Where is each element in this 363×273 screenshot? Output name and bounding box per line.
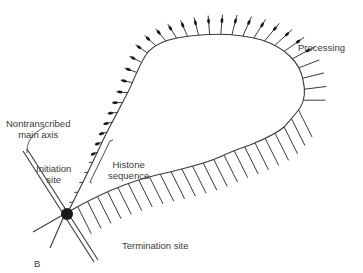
transcript-fibril xyxy=(97,196,111,223)
transcript-fibril xyxy=(139,180,153,207)
transcript-fibril xyxy=(208,16,210,35)
transcript-fibril xyxy=(275,30,292,46)
rnp-particle-icon xyxy=(247,19,252,25)
rnp-particle-icon xyxy=(113,101,118,104)
label-initiation-line2: site xyxy=(36,174,71,185)
label-histone-line1: Histone xyxy=(108,159,149,170)
label-initiation: Initiation site xyxy=(36,163,71,185)
label-processing: Processing xyxy=(298,42,345,53)
transcript-fibril xyxy=(214,159,228,186)
rnp-particle-icon xyxy=(103,122,109,126)
transcript-fibril xyxy=(193,166,207,193)
transcript-fibril xyxy=(305,86,327,89)
transcript-fibril xyxy=(203,163,217,190)
transcript-fibril xyxy=(221,15,223,35)
transcript-fibril xyxy=(160,174,174,201)
junction-blob xyxy=(61,208,73,220)
transcript-fibril xyxy=(108,192,122,219)
transcript-fibril xyxy=(181,20,188,36)
transcript-fibril xyxy=(254,19,266,38)
transcript-fibril xyxy=(255,143,268,170)
transcript-fibril xyxy=(232,15,237,35)
label-nontranscribed-line2: main axis xyxy=(6,129,70,140)
rnp-particle-icon xyxy=(108,112,114,115)
transcript-fibril xyxy=(299,60,320,68)
label-histone: Histone sequence xyxy=(108,159,149,181)
transcript-fibril xyxy=(128,184,142,211)
transcript-fibril xyxy=(284,127,298,154)
transcript-fibril xyxy=(224,155,238,182)
transcript-fibril xyxy=(78,207,92,234)
transcript-fibril xyxy=(194,17,198,35)
label-nontranscribed: Nontranscribed main axis xyxy=(6,118,70,140)
rnp-particle-icon xyxy=(94,142,100,146)
label-initiation-line1: Initiation xyxy=(36,163,71,174)
label-termination: Termination site xyxy=(122,240,189,251)
rnp-particle-icon xyxy=(99,132,105,136)
transcript-fibril xyxy=(182,169,196,196)
transcript-fibril xyxy=(299,110,313,137)
transcript-fibril xyxy=(275,133,289,160)
transcript-fibril xyxy=(118,187,132,214)
rnp-particle-icon xyxy=(220,18,223,23)
transcript-fibril xyxy=(171,172,185,199)
transcript-fibril xyxy=(265,23,280,41)
transcript-fibril xyxy=(234,151,248,178)
rnp-particle-icon xyxy=(130,56,136,61)
rnp-particle-icon xyxy=(193,20,197,26)
transcript-fibril xyxy=(243,17,252,37)
rnp-particle-icon xyxy=(121,79,127,83)
rnp-particle-icon xyxy=(233,18,237,24)
transcript-fibril xyxy=(291,119,305,146)
rnp-particle-icon xyxy=(207,19,210,24)
transcript-fibril xyxy=(245,147,259,174)
transcript-fibril xyxy=(149,177,163,204)
rnp-particle-icon xyxy=(180,22,185,28)
transcription-loop xyxy=(68,34,305,212)
rnp-particle-icon xyxy=(125,67,131,71)
transcript-fibril xyxy=(265,138,279,165)
label-panel-b: B xyxy=(34,258,40,269)
label-histone-line2: sequence xyxy=(108,170,149,181)
label-nontranscribed-line1: Nontranscribed xyxy=(6,118,70,129)
rnp-particle-icon xyxy=(117,90,122,93)
transcript-fibril xyxy=(88,201,102,228)
transcript-fibril xyxy=(303,73,324,78)
